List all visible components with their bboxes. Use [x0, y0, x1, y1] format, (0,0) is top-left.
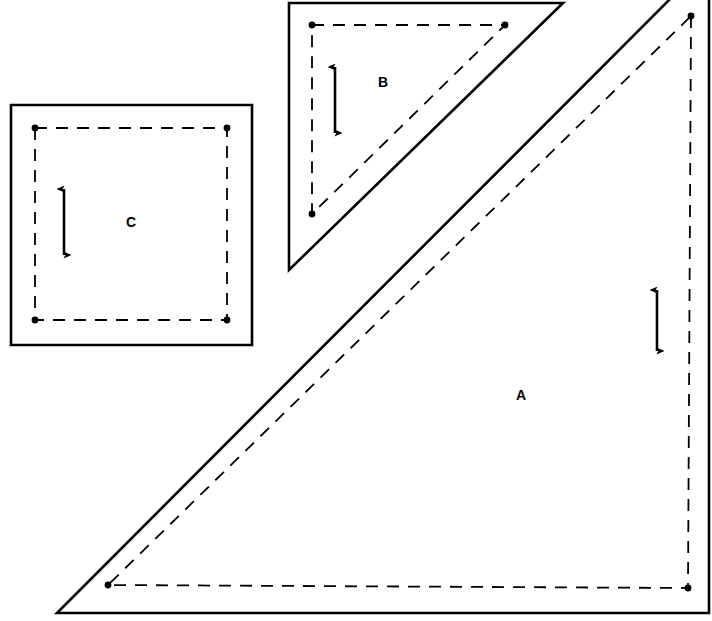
piece-c-seam-dot — [224, 317, 231, 324]
piece-a-seam-dot — [685, 585, 692, 592]
piece-b-label: B — [378, 74, 388, 90]
piece-c-group: C — [11, 105, 252, 345]
piece-a-seam-outline — [108, 16, 691, 588]
piece-a-cut-outline — [57, 0, 709, 613]
piece-b-seam-dot — [502, 22, 509, 29]
piece-a-seam-dot — [105, 582, 112, 589]
piece-b-seam-dot — [309, 211, 316, 218]
piece-b-seam-dot — [309, 22, 316, 29]
piece-c-seam-dot — [32, 317, 39, 324]
piece-b-seam-outline — [312, 25, 505, 214]
pattern-diagram-canvas: A B C — [0, 0, 712, 621]
piece-c-seam-dot — [32, 125, 39, 132]
pattern-pieces-svg: A B C — [0, 0, 712, 621]
piece-a-seam-dot — [688, 13, 695, 20]
piece-a-label: A — [516, 387, 526, 403]
piece-b-group: B — [289, 3, 563, 270]
piece-b-cut-outline — [289, 3, 563, 270]
piece-a-group: A — [57, 0, 709, 613]
piece-c-label: C — [126, 214, 136, 230]
piece-c-seam-dot — [224, 125, 231, 132]
